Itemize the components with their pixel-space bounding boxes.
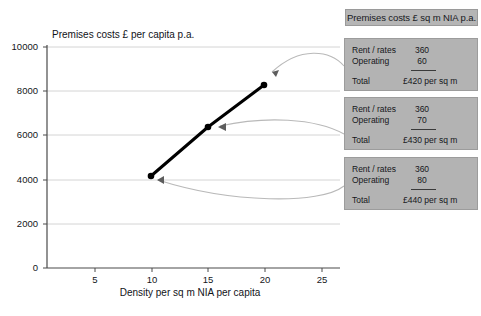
- cost-label-rent: Rent / rates: [352, 45, 396, 55]
- cost-value-rent: 360: [407, 104, 437, 114]
- cost-row-rent: Rent / rates 360: [345, 44, 477, 55]
- cost-value-rent: 360: [407, 45, 437, 55]
- cost-label-operating: Operating: [352, 175, 389, 185]
- y-tick-label-2000: 2000: [0, 218, 38, 229]
- cost-row-operating: Operating 70: [345, 114, 477, 125]
- cost-row-total: Total £430 per sq m: [345, 134, 477, 145]
- cost-total-rule: [411, 70, 436, 71]
- x-tick-label-25: 25: [307, 274, 337, 285]
- cost-value-total: £440 per sq m: [403, 195, 457, 205]
- x-tick-label-15: 15: [193, 274, 223, 285]
- cost-breakdown-box-3: Rent / rates 360 Operating 80 Total £440…: [344, 157, 478, 210]
- annotation-arrow-middle: [220, 120, 344, 134]
- cost-total-rule: [411, 129, 436, 130]
- cost-row-operating: Operating 80: [345, 174, 477, 185]
- cost-value-total: £420 per sq m: [403, 76, 457, 86]
- cost-label-rent: Rent / rates: [352, 104, 396, 114]
- data-series-line: [151, 85, 264, 176]
- y-tick-label-8000: 8000: [0, 85, 38, 96]
- data-point-15: [205, 124, 212, 131]
- annotation-arrow-bottom: [158, 180, 344, 199]
- y-tick-label-10000: 10000: [0, 41, 38, 52]
- panel-header-label: Premises costs £ sq m NIA p.a.: [347, 12, 476, 23]
- axis-lines: [47, 45, 340, 268]
- cost-total-rule: [411, 189, 436, 190]
- x-axis-title: Density per sq m NIA per capita: [60, 287, 320, 298]
- y-tick-label-4000: 4000: [0, 174, 38, 185]
- cost-value-total: £430 per sq m: [403, 135, 457, 145]
- cost-label-operating: Operating: [352, 56, 389, 66]
- cost-breakdown-box-1: Rent / rates 360 Operating 60 Total £420…: [344, 38, 478, 91]
- x-tick-label-10: 10: [137, 274, 167, 285]
- arrowhead-bottom: [157, 176, 164, 184]
- annotation-arrow-top: [272, 53, 344, 72]
- cost-breakdown-box-2: Rent / rates 360 Operating 70 Total £430…: [344, 97, 478, 150]
- cost-row-total: Total £420 per sq m: [345, 75, 477, 86]
- x-tick-label-20: 20: [250, 274, 280, 285]
- cost-value-operating: 70: [407, 115, 437, 125]
- chart-title: Premises costs £ per capita p.a.: [52, 29, 194, 40]
- cost-row-rent: Rent / rates 360: [345, 103, 477, 114]
- cost-label-total: Total: [352, 195, 370, 205]
- cost-row-total: Total £440 per sq m: [345, 194, 477, 205]
- data-point-20: [261, 82, 268, 89]
- cost-label-operating: Operating: [352, 115, 389, 125]
- y-tick-label-0: 0: [0, 262, 38, 273]
- y-tick-label-6000: 6000: [0, 129, 38, 140]
- x-tick-label-5: 5: [80, 274, 110, 285]
- cost-value-operating: 60: [407, 56, 437, 66]
- cost-value-operating: 80: [407, 175, 437, 185]
- gridlines: [47, 47, 340, 224]
- arrowhead-middle: [218, 123, 226, 131]
- panel-header: Premises costs £ sq m NIA p.a.: [345, 9, 478, 26]
- chart-page: Premises costs £ per capita p.a. 10000 8…: [0, 0, 481, 316]
- cost-value-rent: 360: [407, 164, 437, 174]
- annotation-arrows: [158, 53, 344, 199]
- cost-label-rent: Rent / rates: [352, 164, 396, 174]
- cost-row-operating: Operating 60: [345, 55, 477, 66]
- cost-row-rent: Rent / rates 360: [345, 163, 477, 174]
- data-point-10: [148, 173, 155, 180]
- cost-label-total: Total: [352, 135, 370, 145]
- cost-label-total: Total: [352, 76, 370, 86]
